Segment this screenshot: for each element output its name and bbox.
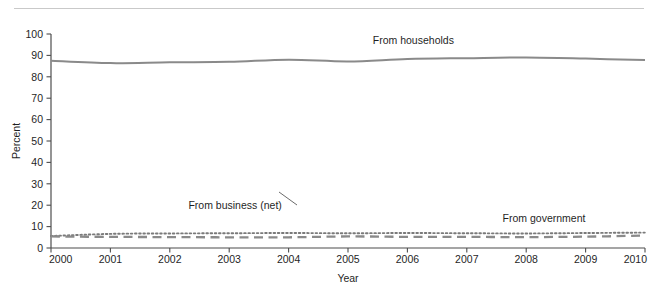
- series-annotation-from-business-net: From business (net): [188, 199, 281, 211]
- y-tick-label: 60: [31, 113, 43, 125]
- series-annotation-from-government: From government: [503, 212, 586, 224]
- y-tick-label: 30: [31, 178, 43, 190]
- x-tick-label: 2007: [455, 253, 479, 265]
- x-axis-title: Year: [337, 272, 359, 284]
- y-axis-title: Percent: [10, 123, 22, 159]
- x-tick-label: 2008: [515, 253, 539, 265]
- y-tick-label: 50: [31, 135, 43, 147]
- y-tick-label: 70: [31, 92, 43, 104]
- y-tick-label: 100: [25, 28, 43, 40]
- x-tick-label: 2003: [218, 253, 242, 265]
- x-axis-ticks: [51, 248, 645, 253]
- x-tick-label: 2006: [396, 253, 420, 265]
- x-tick-label: 2002: [158, 253, 182, 265]
- y-tick-label: 10: [31, 220, 43, 232]
- series-line-from-business-net: [51, 236, 645, 238]
- series-line-from-households: [51, 58, 645, 64]
- y-tick-label: 80: [31, 71, 43, 83]
- series-annotation-from-households: From households: [373, 34, 454, 46]
- x-tick-label: 2010: [624, 253, 648, 265]
- x-tick-label: 2000: [49, 253, 73, 265]
- x-tick-label: 2005: [336, 253, 360, 265]
- x-axis-tick-labels: 2000200120022003200420052006200720082009…: [49, 253, 647, 265]
- chart-series-layer: [51, 58, 645, 238]
- y-tick-label: 20: [31, 199, 43, 211]
- y-axis-tick-labels: 0102030405060708090100: [25, 28, 43, 254]
- x-tick-label: 2004: [277, 253, 301, 265]
- x-tick-label: 2009: [574, 253, 598, 265]
- y-tick-label: 90: [31, 49, 43, 61]
- chart-annotations: From householdsFrom business (net)From g…: [188, 34, 585, 224]
- y-axis-ticks: [47, 34, 52, 248]
- y-tick-label: 0: [37, 242, 43, 254]
- line-chart: 0102030405060708090100 20002001200220032…: [0, 0, 658, 302]
- chart-figure: 0102030405060708090100 20002001200220032…: [0, 0, 658, 302]
- y-tick-label: 40: [31, 156, 43, 168]
- x-tick-label: 2001: [99, 253, 123, 265]
